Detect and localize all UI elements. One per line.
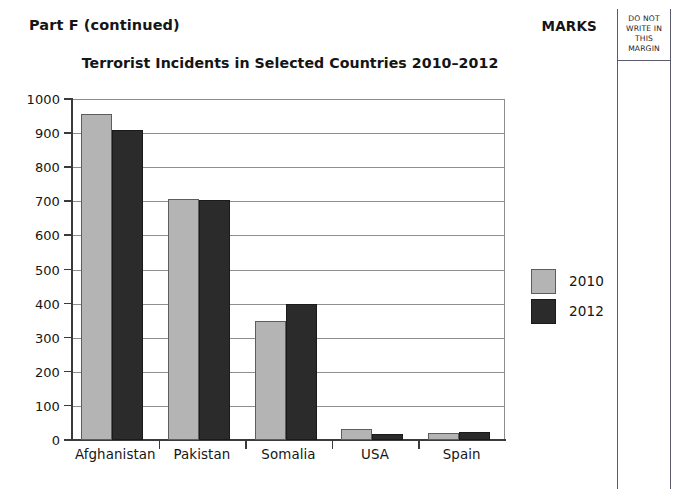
y-axis-tick	[64, 269, 72, 271]
chart-legend: 20102012	[531, 266, 604, 326]
y-axis-tick-label: 600	[16, 228, 60, 243]
bar-pakistan-2012	[199, 200, 230, 440]
y-axis-tick	[64, 337, 72, 339]
x-axis-category-label: Pakistan	[173, 447, 230, 462]
bar-somalia-2012	[286, 304, 317, 440]
y-axis-tick	[64, 98, 72, 100]
bar-usa-2012	[372, 434, 403, 440]
margin-note-line-2: WRITE IN	[620, 24, 668, 34]
y-axis-tick	[64, 234, 72, 236]
x-axis-category-label: USA	[361, 447, 389, 462]
x-axis-category-label: Somalia	[261, 447, 315, 462]
margin-note-line-3: THIS	[620, 34, 668, 44]
margin-note-line-1: DO NOT	[620, 14, 668, 24]
x-axis-tick	[159, 440, 161, 449]
x-axis-category-label: Spain	[443, 447, 481, 462]
bar-afghanistan-2012	[112, 130, 143, 440]
bar-afghanistan-2010	[81, 114, 112, 440]
y-axis-tick-label: 0	[16, 433, 60, 448]
y-axis-tick	[64, 132, 72, 134]
bar-spain-2012	[459, 432, 490, 440]
y-axis-tick-label: 200	[16, 364, 60, 379]
bar-pakistan-2010	[168, 199, 199, 440]
y-axis-tick-label: 300	[16, 330, 60, 345]
y-axis-tick	[64, 166, 72, 168]
exam-page: Part F (continued) MARKS DO NOT WRITE IN…	[0, 0, 681, 489]
do-not-write-margin-column: DO NOT WRITE IN THIS MARGIN	[617, 9, 671, 489]
y-axis-tick-label: 400	[16, 296, 60, 311]
x-axis-category-label: Afghanistan	[75, 447, 156, 462]
y-axis-tick	[64, 439, 72, 441]
y-axis-tick-label: 700	[16, 194, 60, 209]
legend-item-2010: 2010	[531, 266, 604, 296]
y-axis-tick-label: 500	[16, 262, 60, 277]
x-axis-tick	[332, 440, 334, 449]
y-axis-tick	[64, 200, 72, 202]
margin-note: DO NOT WRITE IN THIS MARGIN	[618, 9, 670, 61]
legend-label-2010: 2010	[569, 273, 604, 289]
y-axis-tick	[64, 371, 72, 373]
legend-label-2012: 2012	[569, 303, 604, 319]
margin-note-line-4: MARGIN	[620, 44, 668, 54]
y-axis-tick-label: 100	[16, 398, 60, 413]
marks-label: MARKS	[542, 18, 597, 34]
legend-item-2012: 2012	[531, 296, 604, 326]
bar-spain-2010	[428, 433, 459, 440]
legend-swatch-2010	[531, 269, 556, 294]
chart-title: Terrorist Incidents in Selected Countrie…	[0, 55, 580, 71]
y-axis-tick-label: 800	[16, 160, 60, 175]
bar-somalia-2010	[255, 321, 286, 440]
x-axis-tick	[245, 440, 247, 449]
y-axis-tick-label: 1000	[16, 92, 60, 107]
y-axis-tick-label: 900	[16, 126, 60, 141]
y-axis-labels: 01002003004005006007008009001000	[14, 0, 60, 489]
bar-usa-2010	[341, 429, 372, 440]
x-axis-tick	[418, 440, 420, 449]
y-axis-tick	[64, 303, 72, 305]
y-axis-tick	[64, 405, 72, 407]
legend-swatch-2012	[531, 299, 556, 324]
